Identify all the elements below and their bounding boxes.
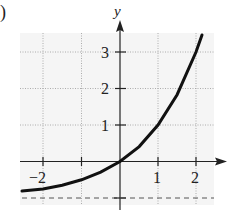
exponential-graph: ) y 3 2 1 −2 1 2 bbox=[0, 0, 228, 210]
y-tick-label-2: 2 bbox=[101, 80, 109, 97]
y-tick-label-1: 1 bbox=[101, 117, 109, 134]
x-tick-label-1: 1 bbox=[153, 169, 161, 186]
y-tick-label-3: 3 bbox=[101, 44, 109, 61]
x-tick-label-neg2: −2 bbox=[29, 169, 46, 186]
y-axis-label: y bbox=[112, 3, 121, 19]
grid-background bbox=[20, 33, 214, 205]
x-tick-label-2: 2 bbox=[191, 169, 199, 186]
panel-label: ) bbox=[0, 2, 6, 23]
